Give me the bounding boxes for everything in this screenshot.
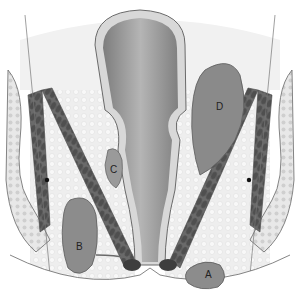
label-c: C [110, 164, 117, 175]
right-pudendal-vessel-icon [247, 178, 251, 182]
label-a: A [205, 269, 212, 280]
left-external-sphincter [123, 259, 141, 271]
abscess-b [62, 198, 97, 273]
label-b: B [76, 241, 83, 252]
anatomy-figure: A B C D [0, 0, 300, 306]
left-pudendal-vessel-icon [45, 178, 49, 182]
anatomy-svg: A B C D [0, 0, 300, 306]
right-external-sphincter [159, 259, 177, 271]
label-d: D [216, 101, 223, 112]
